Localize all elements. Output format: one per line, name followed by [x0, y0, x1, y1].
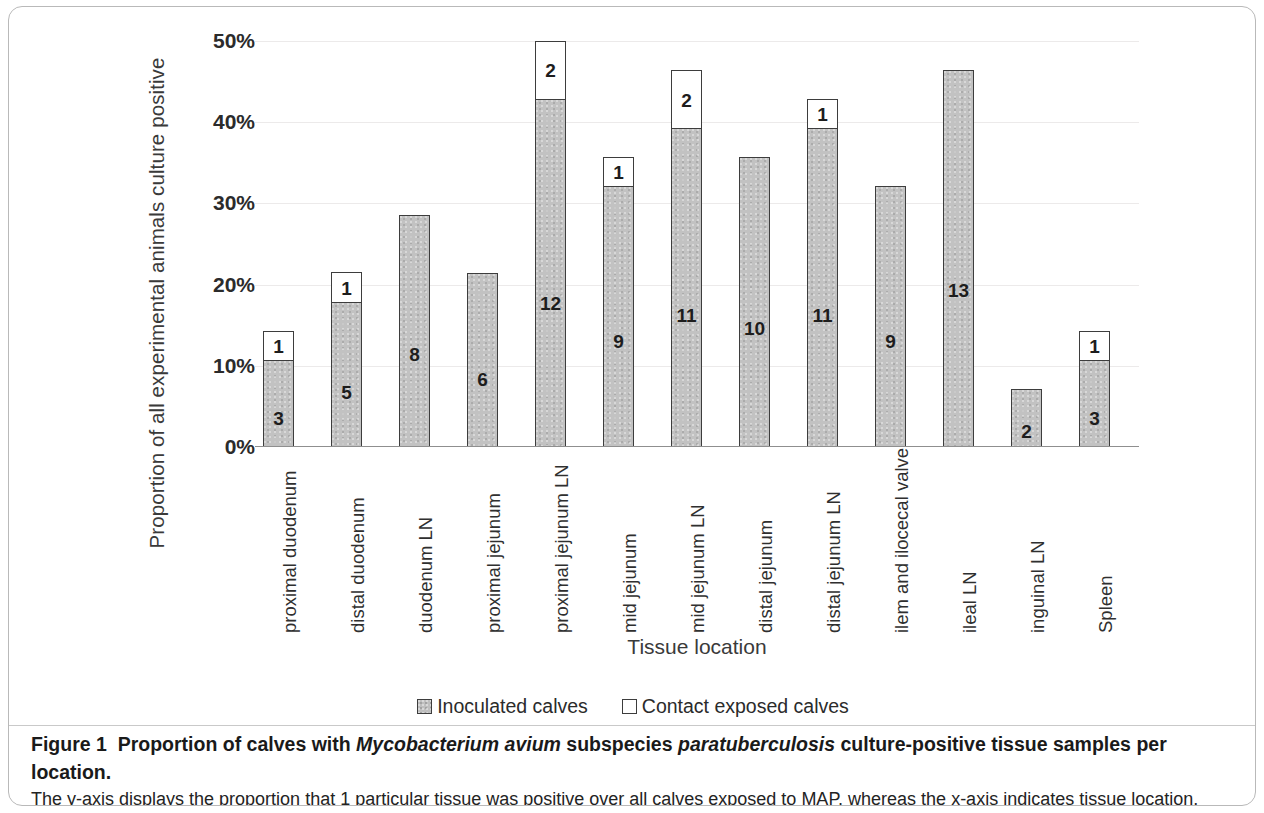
y-axis-tick-labels: 0%10%20%30%40%50% — [169, 7, 255, 527]
bar-segment-inoculated[interactable]: 9 — [603, 186, 634, 447]
x-tick-label: proximal jejunum — [467, 455, 498, 635]
x-tick-label: mid jejunum — [603, 455, 634, 635]
caption-title: Figure 1 Proportion of calves with Mycob… — [31, 731, 1241, 786]
legend-item: Inoculated calves — [417, 695, 588, 718]
x-tick-label-text: proximal jejunum LN — [551, 464, 573, 633]
x-tick-label-text: duodenum LN — [415, 517, 437, 633]
bar-value-label: 8 — [409, 345, 420, 364]
bar-value-label: 5 — [341, 383, 352, 402]
bar-segment-contact-exposed[interactable]: 1 — [807, 99, 838, 128]
bar-value-label: 9 — [613, 332, 624, 351]
chart-legend: Inoculated calvesContact exposed calves — [9, 695, 1256, 718]
bar-group[interactable]: 13 — [1079, 331, 1110, 447]
figure-frame: Proportion of all experimental animals c… — [8, 6, 1256, 806]
caption-figure-label: Figure 1 — [31, 733, 107, 755]
bar-segment-inoculated[interactable]: 2 — [1011, 389, 1042, 447]
chart-plot-region: Proportion of all experimental animals c… — [9, 7, 1256, 687]
bar-group[interactable]: 111 — [807, 99, 838, 447]
bar-value-label: 11 — [676, 306, 696, 325]
bar-group[interactable]: 13 — [943, 70, 974, 447]
figure-caption: Figure 1 Proportion of calves with Mycob… — [31, 731, 1241, 806]
x-tick-label: distal jejunum LN — [807, 455, 838, 635]
x-tick-label-text: distal jejunum LN — [823, 491, 845, 633]
gridline — [255, 41, 1139, 42]
caption-title-text-2: subspecies — [561, 733, 678, 755]
caption-divider — [9, 725, 1256, 726]
bar-group[interactable]: 10 — [739, 157, 770, 447]
x-axis-title: Tissue location — [255, 635, 1139, 659]
bar-value-label: 6 — [477, 370, 488, 389]
bar-segment-contact-exposed[interactable]: 1 — [331, 272, 362, 301]
caption-line-2: The y-axis displays the proportion that … — [31, 787, 1241, 806]
x-tick-label: duodenum LN — [399, 455, 430, 635]
bar-value-label: 1 — [817, 104, 828, 123]
bar-segment-inoculated[interactable]: 11 — [671, 128, 702, 447]
bar-segment-inoculated[interactable]: 12 — [535, 99, 566, 447]
x-tick-label-text: mid jejunum LN — [687, 504, 709, 633]
bar-value-label: 2 — [681, 90, 692, 109]
bar-value-label: 1 — [273, 337, 284, 356]
y-tick-label: 30% — [175, 191, 255, 215]
bar-segment-inoculated[interactable]: 10 — [739, 157, 770, 447]
x-tick-label-text: proximal duodenum — [279, 471, 301, 633]
x-tick-label: proximal duodenum — [263, 455, 294, 635]
bar-group[interactable]: 2 — [1011, 389, 1042, 447]
legend-item: Contact exposed calves — [622, 695, 849, 718]
x-tick-label: distal duodenum — [331, 455, 362, 635]
x-tick-label: distal jejunum — [739, 455, 770, 635]
plot-box: 1315862121921110111913213 — [255, 41, 1139, 447]
legend-label: Contact exposed calves — [642, 695, 849, 718]
x-tick-label-text: mid jejunum — [619, 533, 641, 633]
bar-segment-inoculated[interactable]: 5 — [331, 302, 362, 447]
bar-value-label: 2 — [1021, 422, 1032, 441]
bar-segment-contact-exposed[interactable]: 2 — [671, 70, 702, 128]
bar-value-label: 12 — [540, 294, 561, 313]
bar-group[interactable]: 6 — [467, 273, 498, 447]
bar-value-label: 3 — [1089, 409, 1100, 428]
bar-group[interactable]: 13 — [263, 331, 294, 447]
bar-group[interactable]: 19 — [603, 157, 634, 447]
y-tick-label: 50% — [175, 29, 255, 53]
bar-segment-contact-exposed[interactable]: 1 — [263, 331, 294, 360]
bar-value-label: 1 — [341, 278, 352, 297]
bar-value-label: 9 — [885, 332, 896, 351]
y-tick-label: 40% — [175, 110, 255, 134]
bar-segment-inoculated[interactable]: 11 — [807, 128, 838, 447]
x-tick-label-text: inguinal LN — [1027, 540, 1049, 633]
bar-group[interactable]: 15 — [331, 272, 362, 447]
bar-segment-contact-exposed[interactable]: 2 — [535, 41, 566, 99]
caption-species-2: paratuberculosis — [678, 733, 835, 755]
x-tick-label: inguinal LN — [1011, 455, 1042, 635]
bar-segment-contact-exposed[interactable]: 1 — [603, 157, 634, 186]
bar-value-label: 3 — [273, 409, 284, 428]
bar-segment-inoculated[interactable]: 6 — [467, 273, 498, 447]
y-tick-label: 10% — [175, 354, 255, 378]
bar-group[interactable]: 8 — [399, 215, 430, 447]
x-tick-label-text: distal jejunum — [755, 520, 777, 633]
legend-label: Inoculated calves — [437, 695, 588, 718]
inoculated-swatch — [417, 699, 432, 714]
x-axis-tick-labels: proximal duodenumdistal duodenumduodenum… — [255, 455, 1139, 635]
x-tick-label-text: ilem and ilocecal valve — [891, 448, 913, 633]
bar-group[interactable]: 211 — [671, 70, 702, 447]
bar-value-label: 1 — [1089, 337, 1100, 356]
caption-title-text-1: Proportion of calves with — [118, 733, 356, 755]
bar-segment-inoculated[interactable]: 9 — [875, 186, 906, 447]
bar-value-label: 13 — [948, 281, 969, 300]
bar-group[interactable]: 212 — [535, 41, 566, 447]
bar-segment-inoculated[interactable]: 3 — [1079, 360, 1110, 447]
x-tick-label-text: ileal LN — [959, 571, 981, 633]
bar-group[interactable]: 9 — [875, 186, 906, 447]
bar-value-label: 1 — [613, 163, 624, 182]
x-tick-label-text: proximal jejunum — [483, 493, 505, 633]
bar-value-label: 10 — [744, 319, 765, 338]
caption-species-1: Mycobacterium avium — [356, 733, 561, 755]
bar-segment-inoculated[interactable]: 13 — [943, 70, 974, 447]
x-tick-label: mid jejunum LN — [671, 455, 702, 635]
x-tick-label-text: Spleen — [1095, 575, 1117, 633]
x-tick-label-text: distal duodenum — [347, 497, 369, 633]
bar-value-label: 2 — [545, 61, 556, 80]
bar-segment-inoculated[interactable]: 3 — [263, 360, 294, 447]
bar-segment-contact-exposed[interactable]: 1 — [1079, 331, 1110, 360]
bar-segment-inoculated[interactable]: 8 — [399, 215, 430, 447]
